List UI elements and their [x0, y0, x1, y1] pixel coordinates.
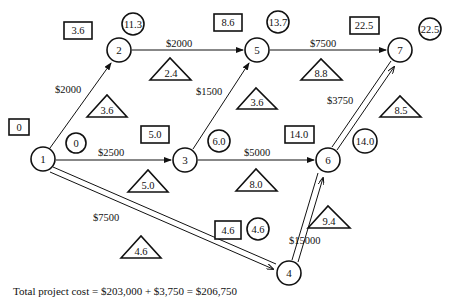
- svg-text:5.0: 5.0: [141, 180, 154, 191]
- cost-label-3-6: $5000: [244, 147, 270, 158]
- svg-text:6.0: 6.0: [212, 136, 225, 147]
- svg-text:14.0: 14.0: [356, 136, 374, 147]
- latest-circle-3: 6.0: [208, 130, 230, 152]
- earliest-box-6: 14.0: [285, 126, 314, 143]
- latest-circle-6: 14.0: [353, 129, 377, 153]
- svg-text:22.5: 22.5: [421, 24, 439, 35]
- svg-text:4.6: 4.6: [251, 224, 264, 235]
- cost-label-1-4: $7500: [93, 212, 119, 223]
- earliest-box-7: 22.5: [350, 17, 379, 34]
- node-2: 2: [107, 38, 131, 62]
- network-diagram: 1 2 3 4 5 6 7 0 3.6 5.0 4.6 8.6: [0, 0, 450, 302]
- svg-text:11.3: 11.3: [124, 19, 142, 30]
- latest-circle-7: 22.5: [419, 18, 441, 40]
- triangle-2-5: 2.4: [150, 58, 191, 80]
- svg-text:14.0: 14.0: [290, 129, 308, 140]
- earliest-box-5: 8.6: [214, 14, 242, 31]
- triangle-6-7: 8.5: [380, 96, 421, 117]
- svg-text:7: 7: [397, 44, 403, 56]
- cost-label-3-5: $1500: [196, 86, 222, 97]
- cost-label-1-3: $2500: [98, 147, 124, 158]
- svg-text:2: 2: [116, 44, 122, 56]
- triangle-5-7: 8.8: [301, 59, 342, 80]
- total-project-cost: Total project cost = $203,000 + $3,750 =…: [13, 285, 237, 297]
- triangle-4-6: 9.4: [308, 206, 350, 228]
- svg-text:4.6: 4.6: [134, 246, 147, 257]
- svg-text:3: 3: [182, 154, 188, 166]
- svg-text:2.4: 2.4: [164, 68, 178, 79]
- earliest-box-2: 3.6: [64, 22, 92, 39]
- svg-text:0: 0: [73, 138, 78, 149]
- node-7: 7: [388, 38, 412, 62]
- edge-1-4-critical: [50, 167, 276, 269]
- node-1: 1: [31, 147, 55, 171]
- svg-text:5.0: 5.0: [148, 129, 161, 140]
- svg-text:8.8: 8.8: [314, 68, 327, 79]
- cost-label-2-5: $2000: [166, 38, 192, 49]
- svg-text:9.4: 9.4: [322, 216, 336, 227]
- earliest-box-4: 4.6: [215, 221, 241, 239]
- svg-text:4.6: 4.6: [221, 225, 234, 236]
- svg-text:5: 5: [254, 44, 260, 56]
- node-5: 5: [245, 38, 269, 62]
- svg-text:13.7: 13.7: [269, 17, 287, 28]
- svg-text:8.5: 8.5: [394, 105, 407, 116]
- latest-circle-5: 13.7: [267, 11, 289, 33]
- svg-text:8.6: 8.6: [221, 17, 234, 28]
- triangle-1-3: 5.0: [128, 170, 168, 192]
- svg-text:1: 1: [40, 153, 46, 165]
- svg-text:3.6: 3.6: [100, 105, 113, 116]
- earliest-box-3: 5.0: [141, 126, 169, 143]
- node-3: 3: [173, 148, 197, 172]
- cost-label-5-7: $7500: [310, 38, 336, 49]
- triangle-1-4: 4.6: [121, 236, 161, 258]
- node-6: 6: [316, 148, 340, 172]
- latest-circle-4: 4.6: [247, 218, 269, 240]
- triangle-1-2: 3.6: [87, 95, 127, 117]
- triangle-3-5: 3.6: [237, 88, 277, 109]
- latest-circle-2: 11.3: [122, 13, 144, 35]
- svg-text:3.6: 3.6: [71, 25, 84, 36]
- svg-text:0: 0: [16, 122, 21, 133]
- triangle-3-6: 8.0: [236, 169, 277, 191]
- svg-text:3.6: 3.6: [250, 97, 263, 108]
- svg-text:4: 4: [286, 267, 292, 279]
- svg-text:6: 6: [325, 154, 331, 166]
- earliest-box-1: 0: [9, 119, 29, 135]
- cost-label-4-6: $15000: [289, 235, 321, 246]
- node-4: 4: [277, 261, 301, 285]
- svg-text:8.0: 8.0: [249, 179, 262, 190]
- latest-circle-1: 0: [66, 133, 86, 153]
- cost-label-6-7: $3750: [327, 95, 353, 106]
- svg-text:22.5: 22.5: [355, 20, 373, 31]
- cost-label-1-2: $2000: [55, 84, 81, 95]
